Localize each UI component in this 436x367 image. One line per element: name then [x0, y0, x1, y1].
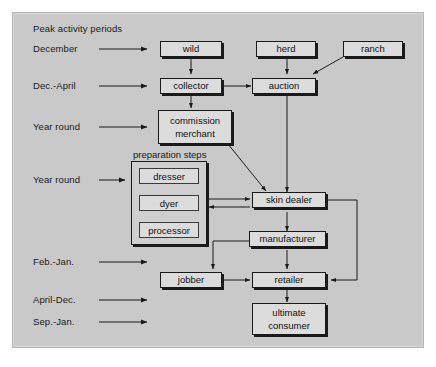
period-label-sep-jan: Sep.-Jan. [33, 316, 75, 327]
node-wild[interactable]: wild [160, 41, 222, 57]
node-ranch[interactable]: ranch [343, 41, 403, 57]
node-manufacturer[interactable]: manufacturer [249, 231, 326, 247]
period-label-year-round-1: Year round [33, 121, 80, 132]
page-title: Peak activity periods [33, 23, 122, 34]
step-dresser[interactable]: dresser [139, 168, 199, 184]
node-skin-dealer[interactable]: skin dealer [252, 192, 326, 208]
node-commission-merchant[interactable]: commission merchant [158, 110, 232, 144]
period-label-feb-jan: Feb.-Jan. [33, 256, 74, 267]
period-label-december: December [33, 43, 78, 54]
step-dyer[interactable]: dyer [139, 195, 199, 211]
period-label-april-dec: April-Dec. [33, 294, 76, 305]
node-commission-merchant-line2: merchant [175, 127, 215, 140]
edge-commission-skindealer [228, 144, 266, 191]
edge-skindealer-retailer [327, 200, 357, 280]
edge-manufacturer-jobber [213, 241, 249, 269]
period-label-dec-april: Dec.-April [33, 80, 76, 91]
preparation-steps-caption: preparation steps [133, 149, 206, 160]
step-processor[interactable]: processor [139, 222, 199, 238]
node-herd[interactable]: herd [256, 41, 316, 57]
node-ultimate-consumer-line2: consumer [268, 319, 310, 332]
node-jobber[interactable]: jobber [160, 272, 222, 288]
edge-ranch-auction [313, 57, 343, 74]
period-label-year-round-2: Year round [33, 174, 80, 185]
node-collector[interactable]: collector [160, 78, 222, 94]
node-commission-merchant-line1: commission [170, 114, 220, 127]
node-ultimate-consumer[interactable]: ultimate consumer [252, 303, 326, 335]
diagram-canvas: Peak activity periods December Dec.-Apri… [0, 0, 436, 367]
node-ultimate-consumer-line1: ultimate [272, 306, 305, 319]
node-auction[interactable]: auction [252, 78, 316, 94]
node-retailer[interactable]: retailer [252, 272, 326, 288]
